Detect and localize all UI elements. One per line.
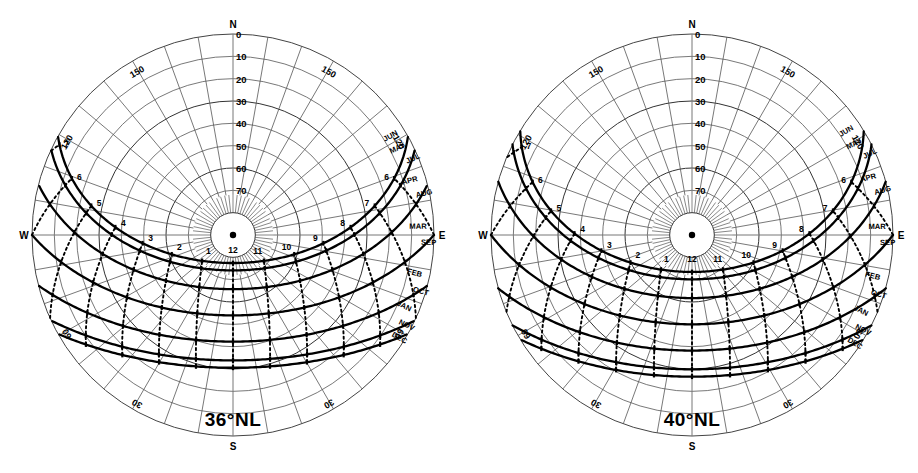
hour-label-14: 2 (635, 250, 640, 260)
hour-label-18: 6 (538, 175, 543, 185)
sun-path-chart-36nl: 12111098761234567010203040506070NSEW1501… (0, 0, 459, 473)
cardinal-south: S (230, 441, 237, 452)
cardinal-north: N (688, 19, 695, 30)
hour-label-7: 7 (364, 198, 369, 208)
hour-label-16: 4 (580, 224, 585, 234)
month-label-sep: SEP (880, 238, 895, 247)
altitude-label-30: 30 (236, 96, 247, 107)
zenith-dot (689, 232, 695, 238)
cardinal-east: E (898, 230, 905, 241)
altitude-label-10: 10 (236, 51, 247, 62)
altitude-label-0: 0 (236, 29, 241, 40)
hour-label-8: 8 (340, 218, 345, 228)
hour-label-11: 11 (253, 246, 262, 256)
hour-label-13: 1 (664, 254, 669, 264)
altitude-label-70: 70 (236, 185, 247, 196)
hour-label-17: 5 (97, 198, 102, 208)
hour-label-9: 9 (313, 233, 318, 243)
altitude-label-10: 10 (695, 51, 706, 62)
cardinal-west: W (478, 230, 488, 241)
month-label-sep: SEP (421, 238, 436, 247)
chart-title: 40°NL (664, 409, 721, 430)
hour-label-13: 1 (206, 246, 211, 256)
chart-36nl: 12111098761234567010203040506070NSEW1501… (0, 0, 459, 473)
hour-label-15: 3 (148, 233, 153, 243)
altitude-label-60: 60 (236, 163, 247, 174)
hour-label-17: 5 (557, 203, 562, 213)
hour-label-12: 12 (228, 245, 238, 255)
zenith-dot (230, 232, 236, 238)
altitude-label-50: 50 (695, 141, 706, 152)
hour-label-14: 2 (177, 242, 182, 252)
month-label-mar: MAR (409, 222, 427, 231)
cardinal-south: S (689, 441, 696, 452)
altitude-label-60: 60 (695, 163, 706, 174)
cardinal-west: W (19, 230, 29, 241)
altitude-label-30: 30 (695, 96, 706, 107)
hour-label-10: 10 (282, 242, 292, 252)
altitude-label-0: 0 (695, 29, 700, 40)
hour-label-7: 7 (823, 203, 828, 213)
page-caption (0, 461, 918, 473)
chart-title: 36°NL (205, 409, 262, 430)
hour-label-8: 8 (799, 224, 804, 234)
hour-label-6: 6 (841, 175, 846, 185)
chart-40nl: 12111098761234567010203040506070NSEW1501… (459, 0, 918, 473)
altitude-label-20: 20 (695, 74, 706, 85)
hour-label-12: 12 (687, 254, 697, 264)
altitude-label-40: 40 (695, 118, 706, 129)
hour-label-15: 3 (607, 240, 612, 250)
altitude-label-50: 50 (236, 141, 247, 152)
cardinal-east: E (439, 230, 446, 241)
altitude-label-70: 70 (695, 185, 706, 196)
sun-path-diagram-page: 12111098761234567010203040506070NSEW1501… (0, 0, 918, 473)
cardinal-north: N (229, 19, 236, 30)
hour-label-11: 11 (713, 254, 722, 264)
sun-path-chart-40nl: 12111098761234567010203040506070NSEW1501… (459, 0, 918, 473)
hour-label-9: 9 (772, 240, 777, 250)
hour-label-10: 10 (741, 250, 751, 260)
altitude-label-20: 20 (236, 74, 247, 85)
hour-label-6: 6 (384, 172, 389, 182)
hour-label-16: 4 (121, 218, 126, 228)
altitude-label-40: 40 (236, 118, 247, 129)
hour-label-18: 6 (77, 172, 82, 182)
month-label-mar: MAR (868, 222, 886, 231)
